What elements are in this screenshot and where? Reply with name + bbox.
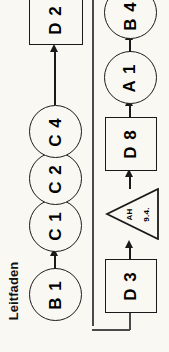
connector-c4-d2: [54, 52, 56, 105]
node-b1-label: B 1: [46, 280, 66, 309]
node-ah[interactable]: AH 9.4.: [105, 188, 159, 240]
node-ah-sublabel: 9.4.: [142, 207, 151, 222]
node-d3[interactable]: D 3: [105, 259, 157, 313]
node-d2-label: D 2: [46, 5, 66, 34]
connector-ah-d8: [129, 176, 131, 189]
node-c1-label: C 1: [46, 211, 66, 240]
node-d8[interactable]: D 8: [105, 117, 157, 171]
node-c2[interactable]: C 2: [29, 152, 82, 205]
connector-d8-a1: [129, 105, 131, 118]
node-d2[interactable]: D 2: [29, 0, 83, 45]
feedback-line-horizontal: [92, 329, 130, 331]
arrowhead-d3-ah: [125, 240, 133, 248]
node-d8-label: D 8: [121, 129, 141, 158]
node-a1-label: A 1: [120, 63, 140, 92]
arrowhead-c4-d2: [50, 44, 58, 52]
diagram-canvas: Leitfaden D 3 AH 9.4. D 8 A 1 B 4: [0, 0, 169, 352]
feedback-line-vertical: [92, 0, 94, 326]
diagram-title: Leitfaden: [5, 251, 23, 331]
node-c2-label: C 2: [46, 164, 66, 193]
node-c1[interactable]: C 1: [29, 199, 82, 252]
node-ah-label: AH: [125, 208, 134, 220]
node-a1[interactable]: A 1: [104, 51, 157, 104]
node-d3-label: D 3: [121, 271, 141, 300]
node-b4[interactable]: B 4: [104, 0, 157, 39]
connector-d3-ah: [129, 247, 131, 260]
feedback-line-riser: [129, 312, 131, 330]
node-b1[interactable]: B 1: [29, 268, 82, 321]
connector-b1-c1: [54, 255, 56, 269]
node-b4-label: B 4: [121, 1, 141, 30]
connector-a1-b4: [129, 39, 131, 52]
node-c4-label: C 4: [46, 117, 66, 146]
node-c4[interactable]: C 4: [29, 105, 82, 158]
